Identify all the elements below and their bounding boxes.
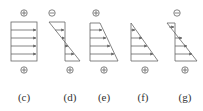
panel-c <box>11 10 37 73</box>
panel-d <box>49 10 80 73</box>
panel-label-g: (g) <box>179 91 192 103</box>
panel-g <box>167 10 197 73</box>
panel-label-c: (c) <box>18 91 30 103</box>
panel-label-e: (e) <box>98 91 110 103</box>
panel-e <box>90 10 118 73</box>
panel-f <box>131 23 158 73</box>
stress-block-trapezoid <box>90 23 118 61</box>
stress-block-rectangle <box>11 22 37 61</box>
stress-block-triangle <box>131 23 158 61</box>
panel-label-d: (d) <box>64 91 77 103</box>
panel-label-f: (f) <box>138 91 149 103</box>
